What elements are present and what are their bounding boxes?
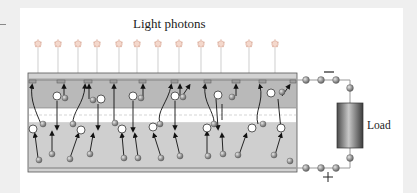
n-type-layer: [29, 78, 296, 108]
junction: [29, 108, 296, 123]
solar-cell-diagram: [0, 0, 417, 193]
positive-terminal-icon: [323, 172, 333, 182]
load-resistor: [337, 103, 363, 148]
load-label: Load: [367, 119, 391, 131]
